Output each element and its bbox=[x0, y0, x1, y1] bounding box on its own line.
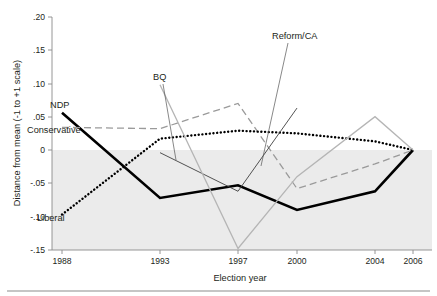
y-tick-label: .05 bbox=[33, 112, 45, 122]
y-tick-label: .20 bbox=[33, 12, 45, 22]
figure-container: .20 .15 .10 .05 0 -.05 -.10 -.15 1988 19… bbox=[0, 0, 437, 296]
y-tick-label: -.15 bbox=[30, 245, 45, 255]
series-label-ndp: NDP bbox=[50, 100, 69, 110]
x-axis-title: Election year bbox=[213, 273, 266, 283]
bq-leader-line bbox=[163, 84, 176, 160]
x-tick-label: 1993 bbox=[150, 256, 169, 266]
line-chart: .20 .15 .10 .05 0 -.05 -.10 -.15 1988 19… bbox=[0, 0, 437, 296]
x-axis-ticks: 1988 1993 1997 2000 2004 2006 bbox=[52, 250, 422, 266]
y-tick-label: .15 bbox=[33, 45, 45, 55]
y-axis-title: Distance from mean (-1 to +1 scale) bbox=[12, 60, 22, 206]
x-tick-label: 2004 bbox=[365, 256, 384, 266]
y-tick-label: 0 bbox=[40, 145, 45, 155]
x-tick-label: 1988 bbox=[52, 256, 71, 266]
series-label-reform-ca: Reform/CA bbox=[272, 31, 318, 41]
reform-leader-line bbox=[261, 43, 288, 166]
series-label-bq: BQ bbox=[153, 72, 166, 82]
negative-shaded-band bbox=[52, 150, 432, 250]
x-tick-label: 1997 bbox=[228, 256, 247, 266]
x-tick-label: 2006 bbox=[403, 256, 422, 266]
y-tick-label: -.05 bbox=[30, 178, 45, 188]
x-tick-label: 2000 bbox=[287, 256, 306, 266]
y-tick-label: .10 bbox=[33, 79, 45, 89]
series-label-liberal: Liberal bbox=[37, 213, 65, 223]
series-label-conservative: Conservative bbox=[27, 125, 81, 135]
